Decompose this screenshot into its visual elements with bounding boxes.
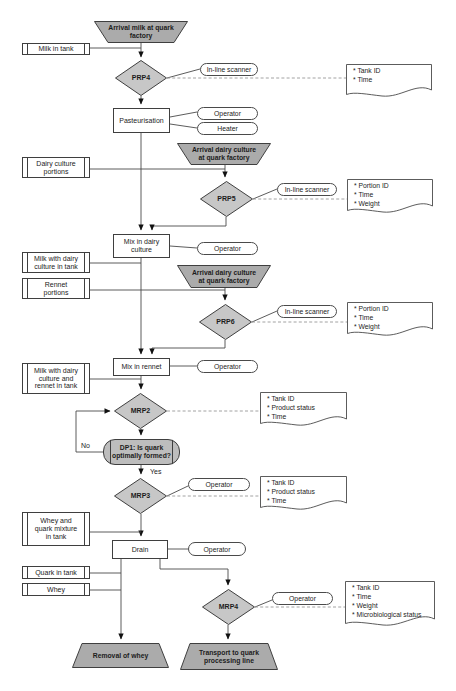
terminator-arrival-dairy-culture-2: Arrival dairy cultureat quark factory [177,265,271,288]
checkpoint-mrp3: MRP3 [114,478,167,514]
state-quark-in-tank: Quark in tank [22,566,90,579]
record-mrp3: * Tank ID* Product status* Time [260,476,347,514]
state-whey: Whey [22,583,90,596]
process-pasteurisation: Pasteurisation [113,108,170,133]
state-milk-with-dairy-culture: Milk with dairyculture in tank [22,252,90,273]
process-mix-in-dairy-culture: Mix in dairyculture [113,234,170,258]
resource-inline-scanner-prp6: In-line scanner [277,305,337,318]
terminator-removal-of-whey: Removal of whey [72,643,169,668]
quark-process-flowchart: Arrival milk at quarkfactory Arrival dai… [0,0,456,691]
resource-operator-mix-rennet: Operator [197,360,258,373]
record-prp4: * Tank ID* Time [346,64,432,101]
record-prp5: * Portion ID* Time* Weight [347,179,433,217]
resource-operator-mix-dairy: Operator [197,242,258,255]
resource-heater: Heater [197,122,258,135]
state-milk-dairy-rennet: Milk with dairyculture andrennet in tank [22,363,90,394]
record-prp6: * Portion ID* Time* Weight [347,302,433,340]
terminator-arrival-dairy-culture-1: Arrival dairy cultureat quark factory [177,143,271,165]
record-mrp2: * Tank ID* Product status* Time [260,392,347,430]
resource-operator-mrp4: Operator [272,592,333,605]
checkpoint-prp4: PRP4 [115,60,167,96]
process-drain: Drain [112,540,168,559]
state-rennet-portions: Rennetportions [22,278,90,299]
resource-inline-scanner-prp4: In-line scanner [200,63,258,76]
resource-operator-drain: Operator [188,542,246,556]
resource-inline-scanner-prp5: In-line scanner [277,183,337,196]
state-milk-in-tank: Milk in tank [22,43,90,55]
terminator-transport-quark: Transport to quarkprocessing line [180,643,278,670]
checkpoint-mrp2: MRP2 [114,393,167,429]
decision-dp1: DP1: Is quarkoptimally formed? [103,439,180,465]
label-no: No [81,442,90,449]
state-whey-quark-mixture: Whey andquark mixturein tank [22,512,90,546]
terminator-arrival-milk: Arrival milk at quarkfactory [94,21,188,43]
checkpoint-mrp4: MRP4 [202,589,255,625]
process-mix-in-rennet: Mix in rennet [113,358,170,376]
checkpoint-prp5: PRP5 [200,181,253,217]
resource-operator-pasteurisation: Operator [197,107,258,120]
record-mrp4: * Tank ID* Time* Weight* Microbiological… [345,581,435,633]
state-dairy-culture-portions: Dairy cultureportions [22,157,90,178]
checkpoint-prp6: PRP6 [199,304,252,340]
label-yes: Yes [150,468,161,475]
resource-operator-mrp3: Operator [188,478,250,491]
